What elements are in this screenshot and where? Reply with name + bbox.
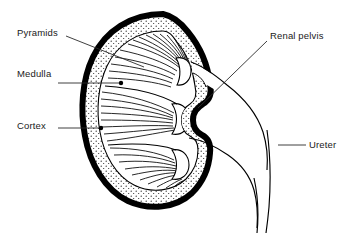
label-renal-pelvis: Renal pelvis [270,30,324,41]
kidney-diagram-figure: Pyramids Medulla Cortex Renal pelvis Ure… [0,0,351,233]
dot-medulla [119,81,123,85]
label-pyramids: Pyramids [17,27,58,38]
label-medulla: Medulla [17,68,51,79]
label-cortex: Cortex [17,120,46,131]
dot-cortex [99,126,103,130]
label-ureter: Ureter [309,139,336,150]
